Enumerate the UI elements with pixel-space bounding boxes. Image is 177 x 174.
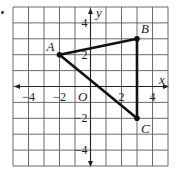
segment-ab: [60, 39, 138, 55]
coordinate-plane: x y O −4−22442−2−4ABC: [0, 0, 177, 174]
point-b: [134, 36, 140, 42]
y-axis-label: y: [94, 5, 102, 20]
x-axis-left-arrow-icon: [14, 84, 20, 89]
point-a: [57, 52, 63, 58]
y-tick-label: −4: [75, 143, 88, 157]
triangle: [60, 39, 138, 119]
x-tick-label: −2: [53, 90, 66, 104]
x-tick-label: 4: [150, 90, 156, 104]
y-tick-label: −2: [75, 111, 88, 125]
point-label-a: A: [46, 39, 55, 54]
y-axis-up-arrow-icon: [88, 8, 93, 14]
x-tick-label: 2: [119, 90, 125, 104]
point-label-b: B: [141, 21, 149, 36]
x-axis-label: x: [158, 72, 165, 87]
point-c: [134, 116, 140, 122]
y-tick-label: 2: [82, 48, 88, 62]
point-label-c: C: [141, 121, 150, 136]
vertices: [57, 36, 140, 121]
y-tick-label: 4: [82, 16, 88, 30]
x-tick-label: −4: [22, 90, 35, 104]
origin-label: O: [78, 89, 88, 104]
